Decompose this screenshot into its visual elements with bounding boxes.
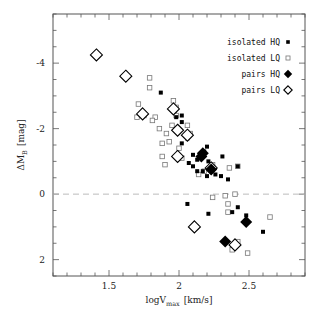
isolated-hq-marker <box>205 174 209 178</box>
isolated-lq-marker <box>268 215 273 220</box>
isolated-hq-marker <box>213 172 217 176</box>
legend-item: isolated LQ <box>227 54 290 63</box>
isolated-hq-marker <box>185 202 189 206</box>
isolated-hq-marker <box>230 210 234 214</box>
isolated-hq-marker <box>226 177 230 181</box>
pairs-hq-marker <box>240 216 252 228</box>
isolated-lq-marker <box>163 162 168 167</box>
isolated-lq-marker <box>226 202 231 207</box>
pairs-lq-marker <box>188 221 200 233</box>
isolated-lq-marker <box>226 210 231 215</box>
isolated-lq-marker <box>177 146 182 151</box>
isolated-lq-marker <box>185 123 190 128</box>
series-pairs-lq <box>90 49 241 251</box>
isolated-hq-marker <box>219 174 223 178</box>
isolated-lq-marker <box>286 56 290 60</box>
isolated-hq-marker <box>261 230 265 234</box>
y-tick-label: -2 <box>36 124 45 134</box>
y-axis-label-sub: B <box>21 150 29 155</box>
legend-label: pairs HQ <box>241 70 280 79</box>
isolated-hq-marker <box>205 145 209 149</box>
isolated-hq-marker <box>220 154 224 158</box>
x-axis-label-sub: max <box>166 300 180 308</box>
legend-label: pairs LQ <box>241 86 280 95</box>
isolated-hq-marker <box>159 91 163 95</box>
isolated-lq-marker <box>170 123 175 128</box>
isolated-lq-marker <box>157 126 162 131</box>
y-tick-label: 2 <box>39 255 45 265</box>
isolated-lq-marker <box>223 194 228 199</box>
isolated-hq-marker <box>206 212 210 216</box>
y-tick-label: 0 <box>39 189 45 199</box>
isolated-hq-marker <box>180 120 184 124</box>
y-axis-label: ΔMB[mag] <box>16 119 29 170</box>
isolated-lq-marker <box>147 85 152 90</box>
isolated-hq-marker <box>180 141 184 145</box>
y-tick-label: -4 <box>36 58 45 68</box>
x-tick-label: 2 <box>176 281 182 291</box>
legend-item: pairs LQ <box>241 86 292 95</box>
pairs-lq-marker <box>284 86 292 94</box>
isolated-lq-marker <box>210 195 215 200</box>
isolated-hq-marker <box>195 169 199 173</box>
isolated-hq-marker <box>187 161 191 165</box>
y-axis-label-unit: [mag] <box>16 119 26 146</box>
x-tick-label: 2.5 <box>242 281 257 291</box>
isolated-hq-marker <box>236 205 240 209</box>
isolated-lq-marker <box>233 192 238 197</box>
x-tick-label: 1.5 <box>102 281 117 291</box>
isolated-lq-marker <box>245 251 250 256</box>
pairs-lq-marker <box>120 70 132 82</box>
data-points <box>90 49 272 255</box>
isolated-lq-marker <box>167 139 172 144</box>
isolated-lq-marker <box>150 118 155 123</box>
legend-item: isolated HQ <box>227 38 290 47</box>
isolated-hq-marker <box>236 164 240 168</box>
legend: isolated HQisolated LQpairs HQpairs LQ <box>227 38 292 95</box>
x-axis-label-main: logV <box>146 295 167 305</box>
series-isolated-lq <box>135 76 273 256</box>
legend-label: isolated HQ <box>227 38 280 47</box>
isolated-hq-marker <box>191 153 195 157</box>
isolated-lq-marker <box>164 131 169 136</box>
x-axis-label-unit: [km/s] <box>184 295 213 305</box>
isolated-hq-marker <box>174 115 178 119</box>
isolated-hq-marker <box>201 169 205 173</box>
y-axis-label-main: ΔM <box>16 155 26 171</box>
pairs-hq-marker <box>284 70 292 78</box>
isolated-hq-marker <box>180 114 184 118</box>
isolated-lq-marker <box>136 102 141 107</box>
isolated-lq-marker <box>160 141 165 146</box>
x-axis-label: logVmax[km/s] <box>146 295 213 308</box>
isolated-lq-marker <box>160 154 165 159</box>
isolated-hq-marker <box>191 164 195 168</box>
isolated-lq-marker <box>147 76 152 81</box>
pairs-lq-marker <box>90 49 102 61</box>
isolated-lq-marker <box>227 166 232 171</box>
isolated-hq-marker <box>286 40 290 44</box>
legend-label: isolated LQ <box>227 54 280 63</box>
legend-item: pairs HQ <box>241 70 292 79</box>
scatter-chart: 1.522.5-4-202 isolated HQisolated LQpair… <box>0 0 317 319</box>
